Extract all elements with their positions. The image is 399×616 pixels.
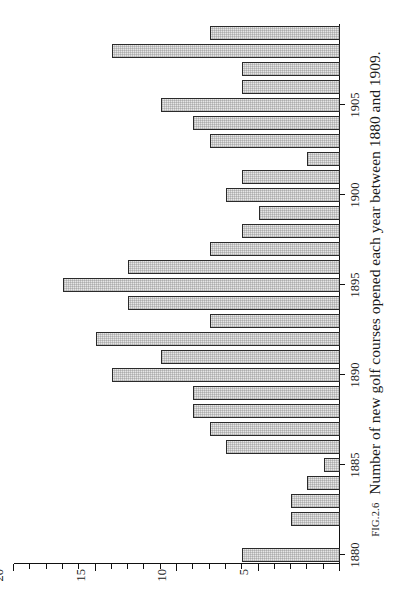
value-tick xyxy=(29,564,30,569)
value-tick xyxy=(209,564,210,569)
bar xyxy=(128,260,340,274)
bar xyxy=(193,116,340,130)
bar xyxy=(128,296,340,310)
bar xyxy=(112,44,340,58)
value-tick xyxy=(176,564,177,571)
value-tick xyxy=(339,564,340,571)
value-tick xyxy=(143,564,144,569)
category-axis-label: 1880 xyxy=(348,543,363,568)
value-axis-label: 15 xyxy=(73,569,88,582)
category-tick xyxy=(340,284,345,285)
value-tick xyxy=(127,564,128,569)
bar xyxy=(161,350,340,364)
bar-chart-plot-area: 5101520 188018851890189519001905 xyxy=(14,24,340,564)
bar xyxy=(242,80,340,94)
bar xyxy=(210,314,340,328)
figure-caption: FIG.2.6Number of new golf courses opened… xyxy=(366,24,383,564)
rotated-figure-wrapper: 5101520 188018851890189519001905 FIG.2.6… xyxy=(0,0,399,616)
category-tick xyxy=(340,104,345,105)
value-tick xyxy=(290,564,291,569)
category-tick xyxy=(340,464,345,465)
category-axis-label: 1895 xyxy=(348,273,363,298)
category-axis-label: 1905 xyxy=(348,93,363,118)
value-tick xyxy=(192,564,193,569)
bar xyxy=(307,476,340,490)
category-tick xyxy=(340,554,345,555)
bar xyxy=(242,224,340,238)
category-axis-label: 1900 xyxy=(348,183,363,208)
value-tick xyxy=(274,564,275,569)
bar xyxy=(193,404,340,418)
value-tick xyxy=(62,564,63,569)
value-tick xyxy=(46,564,47,569)
value-tick xyxy=(95,564,96,571)
bar xyxy=(193,386,340,400)
bar xyxy=(242,170,340,184)
bar xyxy=(242,548,340,562)
bar xyxy=(210,26,340,40)
value-axis-label: 10 xyxy=(155,569,170,582)
bar xyxy=(210,242,340,256)
figure: 5101520 188018851890189519001905 FIG.2.6… xyxy=(0,0,399,616)
bar xyxy=(210,134,340,148)
category-tick xyxy=(340,194,345,195)
value-tick xyxy=(306,564,307,569)
category-tick xyxy=(340,374,345,375)
figure-page: 5101520 188018851890189519001905 FIG.2.6… xyxy=(0,0,399,616)
bar xyxy=(307,152,340,166)
bar xyxy=(226,188,340,202)
bar xyxy=(291,512,340,526)
value-tick xyxy=(323,564,324,569)
figure-number-label: FIG.2.6 xyxy=(370,503,381,537)
category-axis-label: 1885 xyxy=(348,453,363,478)
value-tick xyxy=(111,564,112,569)
bar xyxy=(291,494,340,508)
bar xyxy=(96,332,341,346)
value-tick xyxy=(258,564,259,571)
value-tick xyxy=(225,564,226,569)
bar xyxy=(112,368,340,382)
bar xyxy=(63,278,340,292)
bar xyxy=(210,422,340,436)
value-axis-label: 20 xyxy=(0,569,7,582)
bar xyxy=(324,458,340,472)
category-axis-label: 1890 xyxy=(348,363,363,388)
bar xyxy=(242,62,340,76)
bar xyxy=(259,206,341,220)
bar xyxy=(161,98,340,112)
bar xyxy=(226,440,340,454)
figure-caption-text: Number of new golf courses opened each y… xyxy=(366,51,383,494)
value-axis-label: 5 xyxy=(236,569,251,575)
value-tick xyxy=(13,564,14,571)
